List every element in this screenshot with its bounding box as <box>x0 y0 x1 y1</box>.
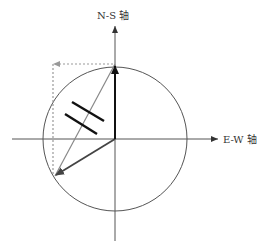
ns-axis-label: N-S 轴 <box>97 9 129 21</box>
hatch-mark-2 <box>65 114 97 134</box>
vector-diagram: N-S 轴 E-W 轴 <box>0 0 265 251</box>
ew-axis-label: E-W 轴 <box>223 133 257 145</box>
chord-line <box>55 64 115 176</box>
hatch-mark-1 <box>72 102 104 121</box>
